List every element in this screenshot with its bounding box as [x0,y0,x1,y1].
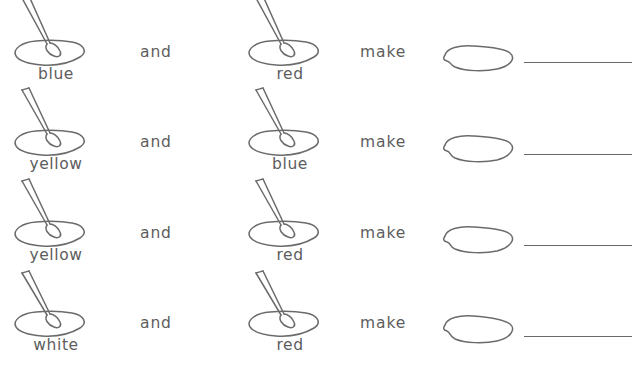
color-label: white [4,336,108,354]
worksheet-row: blue and red make [0,0,635,84]
connector-make: make [360,314,406,332]
connector-and: and [140,314,172,332]
paint-palette-group-first-color: yellow [4,175,114,271]
worksheet-row: yellow and blue make [0,84,635,174]
paint-palette-group-second-color: red [238,265,348,361]
color-mixing-worksheet: blue and red make [0,0,635,381]
answer-write-on-line[interactable] [524,245,632,246]
color-label: blue [238,155,342,173]
paint-palette-group-first-color: yellow [4,84,114,180]
connector-and: and [140,133,172,151]
connector-and: and [140,224,172,242]
color-label: yellow [4,155,108,173]
color-label: yellow [4,246,108,264]
worksheet-row: white and red make [0,265,635,355]
answer-write-on-line[interactable] [524,62,632,63]
empty-paint-palette-icon [437,42,519,76]
paint-palette-group-second-color: red [238,0,348,90]
color-label: red [238,246,342,264]
paint-palette-group-first-color: white [4,265,114,361]
color-label: red [238,336,342,354]
connector-and: and [140,43,172,61]
empty-paint-palette-icon [437,223,519,257]
paint-palette-group-second-color: red [238,175,348,271]
paint-palette-group-second-color: blue [238,84,348,180]
empty-paint-palette-icon [437,132,519,166]
color-label: blue [4,65,108,83]
color-label: red [238,65,342,83]
answer-write-on-line[interactable] [524,336,632,337]
empty-paint-palette-icon [437,313,519,347]
paint-palette-group-first-color: blue [4,0,114,90]
connector-make: make [360,43,406,61]
worksheet-row: yellow and red make [0,175,635,265]
connector-make: make [360,224,406,242]
connector-make: make [360,133,406,151]
answer-write-on-line[interactable] [524,154,632,155]
